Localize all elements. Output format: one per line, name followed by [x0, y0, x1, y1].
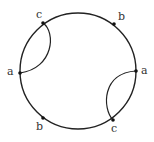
- arc-a-c-right: [106, 71, 136, 120]
- label-c-top: c: [36, 8, 42, 21]
- label-b-top: b: [118, 10, 125, 23]
- chord-diagram: c b a a b c: [0, 0, 154, 142]
- outer-circle: [20, 13, 136, 129]
- label-b-bottom: b: [36, 120, 43, 133]
- point-c-top: [41, 21, 45, 25]
- point-a-right: [134, 69, 138, 73]
- label-a-right: a: [141, 64, 148, 77]
- label-c-bottom: c: [111, 122, 117, 135]
- point-a-left: [18, 71, 22, 75]
- label-a-left: a: [7, 65, 14, 78]
- point-b-top: [112, 22, 116, 26]
